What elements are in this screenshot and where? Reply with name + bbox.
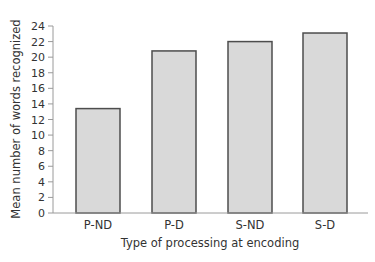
x-category-label: P-ND	[84, 218, 112, 232]
bar-p-nd	[76, 109, 120, 213]
bar-chart: 024681012141618202224 P-NDP-DS-NDS-D Typ…	[0, 0, 375, 262]
y-tick-label: 12	[31, 114, 45, 127]
y-tick-label: 24	[31, 20, 45, 33]
x-category-label: S-D	[315, 218, 335, 232]
bar-s-d	[303, 33, 347, 213]
y-tick-label: 0	[38, 207, 45, 220]
x-category-label: S-ND	[236, 218, 265, 232]
y-axis-ticks: 024681012141618202224	[31, 20, 53, 220]
bar-p-d	[152, 51, 196, 213]
x-category-label: P-D	[164, 218, 184, 232]
x-axis-labels: P-NDP-DS-NDS-D	[84, 218, 335, 232]
y-tick-label: 16	[31, 82, 45, 95]
y-tick-label: 22	[31, 36, 45, 49]
y-tick-label: 2	[38, 191, 45, 204]
y-tick-label: 4	[38, 176, 45, 189]
bars	[76, 33, 347, 213]
y-tick-label: 20	[31, 51, 45, 64]
bar-s-nd	[228, 42, 272, 213]
y-tick-label: 6	[38, 160, 45, 173]
y-tick-label: 14	[31, 98, 45, 111]
x-axis-title: Type of processing at encoding	[120, 236, 299, 250]
y-tick-label: 8	[38, 145, 45, 158]
y-tick-label: 10	[31, 129, 45, 142]
y-axis-title: Mean number of words recognized	[9, 19, 23, 218]
y-tick-label: 18	[31, 67, 45, 80]
